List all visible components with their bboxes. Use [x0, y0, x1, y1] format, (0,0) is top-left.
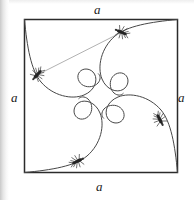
spiral-path-bottom-left: [25, 97, 103, 173]
bug-top-right: [112, 24, 131, 42]
bug-pursuit-figure: a a a a: [0, 0, 194, 200]
pursuit-sight-line: [39, 31, 124, 74]
bug-bottom-left: [68, 153, 87, 171]
side-label-top: a: [94, 3, 101, 16]
side-label-right: a: [178, 91, 185, 104]
bug-top-left: [28, 64, 47, 84]
spiral-path-top-right: [100, 20, 178, 96]
spiral-path-top-left: [25, 20, 101, 98]
diagram-canvas: [0, 0, 194, 200]
side-label-bottom: a: [96, 180, 103, 193]
bug-bottom-right: [150, 109, 168, 128]
side-label-left: a: [11, 91, 18, 104]
spiral-path-bottom-right: [102, 95, 178, 173]
